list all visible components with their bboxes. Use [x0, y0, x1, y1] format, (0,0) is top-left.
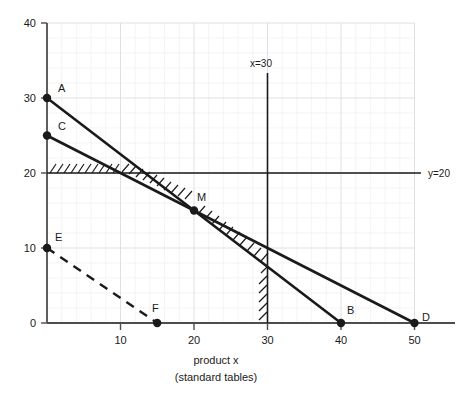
- axis-ticks: [41, 23, 415, 330]
- xaxis-title-line1: product x: [193, 354, 239, 366]
- chart-svg: 40 30 20 10 0 10 20 30 40 50: [0, 0, 462, 393]
- data-point-markers: [43, 94, 419, 327]
- xtick-label-10: 10: [114, 334, 126, 346]
- point-label-M: M: [197, 191, 206, 203]
- point-marker-A: [43, 94, 51, 102]
- ytick-label-20: 20: [24, 167, 36, 179]
- point-label-E: E: [55, 231, 62, 243]
- point-marker-C: [43, 131, 51, 139]
- ytick-label-10: 10: [24, 242, 36, 254]
- annotation-y20: y=20: [428, 168, 450, 179]
- point-label-B: B: [347, 304, 354, 316]
- ytick-label-0: 0: [30, 317, 36, 329]
- ytick-label-40: 40: [24, 17, 36, 29]
- point-marker-M: [190, 206, 198, 214]
- xtick-label-20: 20: [188, 334, 200, 346]
- xaxis-title-line2: (standard tables): [175, 371, 258, 383]
- xtick-label-50: 50: [408, 334, 420, 346]
- point-label-D: D: [422, 311, 430, 323]
- point-label-A: A: [58, 82, 66, 94]
- series-line-EF: [47, 248, 157, 323]
- point-label-C: C: [58, 120, 66, 132]
- chart-figure: 40 30 20 10 0 10 20 30 40 50: [0, 0, 462, 393]
- point-marker-D: [410, 319, 418, 327]
- hatch-y20: [50, 164, 119, 173]
- xtick-label-30: 30: [261, 334, 273, 346]
- annotation-x30: x=30: [250, 58, 272, 69]
- series-line-CD: [47, 136, 415, 324]
- xtick-label-40: 40: [335, 334, 347, 346]
- point-marker-E: [43, 244, 51, 252]
- point-marker-B: [337, 319, 345, 327]
- hatch-x30: [259, 267, 267, 320]
- point-label-F: F: [152, 302, 159, 314]
- point-marker-F: [153, 319, 161, 327]
- ytick-label-30: 30: [24, 92, 36, 104]
